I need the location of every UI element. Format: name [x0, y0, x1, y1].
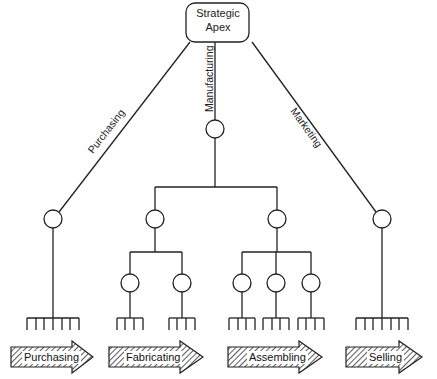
fabricating-supervisor-node-2 [173, 274, 191, 292]
fabricating-operators-rake-2 [169, 318, 195, 330]
purchasing-operators-rake [27, 318, 79, 330]
selling-function-label: Selling [367, 351, 404, 364]
assembling-function-label: Assembling [247, 351, 308, 364]
selling-operators-rake [356, 318, 408, 330]
fabricating-supervisor-node-1 [121, 274, 139, 292]
assembling-operators-rake-3 [298, 318, 324, 330]
fabricating-operators-rake-1 [117, 318, 143, 330]
manufacturing-edge-label: Manufacturing [203, 45, 215, 112]
assembling-supervisor-node-3 [302, 274, 320, 292]
strategic-apex-label: Strategic Apex [186, 6, 250, 34]
assembling-manager-node [268, 210, 286, 228]
assembling-supervisor-node-1 [233, 274, 251, 292]
org-structure-diagram [0, 0, 437, 379]
assembling-operators-rake-2 [263, 318, 289, 330]
assembling-operators-rake-1 [229, 318, 255, 330]
manufacturing-manager-node [206, 120, 224, 138]
purchasing-function-label: Purchasing [22, 351, 81, 364]
fabricating-function-label: Fabricating [124, 351, 182, 364]
purchasing-manager-node [44, 210, 62, 228]
marketing-manager-node [373, 210, 391, 228]
assembling-supervisor-node-2 [267, 274, 285, 292]
apex-label-line2: Apex [186, 20, 250, 34]
fabricating-manager-node [146, 210, 164, 228]
apex-label-line1: Strategic [186, 6, 250, 20]
